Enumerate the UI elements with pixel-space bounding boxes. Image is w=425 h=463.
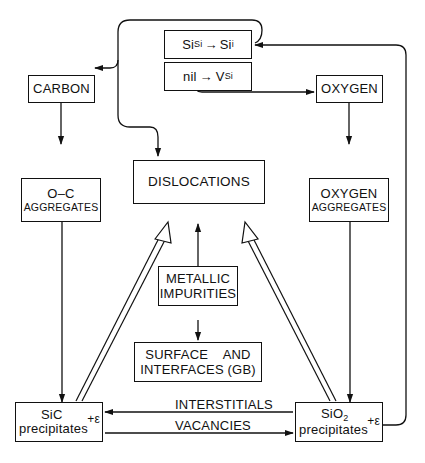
si-base: Si [182, 38, 194, 52]
node-vacancy: nil → VSi [164, 62, 252, 91]
metallic-label: METALLIC [166, 272, 230, 286]
carbon-label: CARBON [33, 82, 90, 96]
node-dislocations: DISLOCATIONS [133, 160, 265, 204]
si-sub-i: i [232, 40, 234, 49]
oxygen-aggregates-label: AGGREGATES [312, 202, 387, 213]
precipitates-label: precipitates [299, 423, 368, 437]
oc-aggregates-label: AGGREGATES [24, 202, 99, 213]
edge-label-interstitials: INTERSTITIALS [175, 397, 273, 412]
edge-si-interstitial-to-carbon [95, 60, 118, 68]
open-arrowhead-right [242, 222, 258, 243]
double-arrow-sio2-to-dislocations-b [252, 236, 336, 401]
sio2-label: SiO2 [321, 407, 349, 423]
sic-label: SiC [41, 408, 63, 422]
node-si-interstitial: SiSi → Sii [164, 30, 252, 59]
arrow-glyph: → [200, 70, 213, 84]
interfaces-label: INTERFACES (GB) [140, 363, 256, 377]
arrow-glyph: → [205, 38, 218, 52]
impurities-label: IMPURITIES [160, 287, 236, 301]
strain-epsilon-label: +ε [87, 413, 100, 426]
node-carbon: CARBON [28, 75, 95, 103]
si-sub-si: Si [194, 40, 202, 49]
open-arrowhead-left [155, 222, 171, 243]
oxygen-agg-label: OXYGEN [321, 187, 378, 201]
node-oxygen: OXYGEN [316, 75, 383, 103]
node-sic-precipitates: SiC precipitates +ε [15, 402, 103, 442]
strain-epsilon-label: +ε [367, 415, 380, 428]
si-base-2: Si [220, 38, 232, 52]
oxygen-label: OXYGEN [321, 82, 378, 96]
node-sio2-precipitates: SiO2 precipitates +ε [295, 402, 383, 442]
node-surface-interfaces: SURFACE AND INTERFACES (GB) [134, 342, 262, 382]
v-sub-si: Si [225, 72, 233, 81]
node-oc-aggregates: O–C AGGREGATES [21, 178, 101, 222]
nil-text: nil [183, 70, 197, 84]
oc-label: O–C [47, 187, 74, 201]
sio-base: SiO [321, 406, 343, 421]
node-metallic-impurities: METALLIC IMPURITIES [158, 266, 238, 306]
dislocations-label: DISLOCATIONS [148, 175, 250, 189]
node-oxygen-aggregates: OXYGEN AGGREGATES [309, 178, 389, 222]
edge-label-vacancies: VACANCIES [175, 418, 251, 433]
v-base: V [216, 70, 225, 84]
precipitates-label: precipitates [19, 422, 88, 436]
surface-label: SURFACE AND [145, 348, 250, 362]
